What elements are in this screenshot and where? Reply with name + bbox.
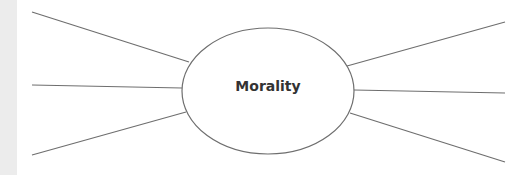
branch-right-bottom — [350, 113, 505, 162]
branch-right-middle — [354, 90, 505, 93]
branch-left-bottom — [32, 112, 186, 155]
branch-right-top — [347, 22, 505, 66]
branch-left-middle — [32, 85, 182, 88]
center-label: Morality — [182, 78, 354, 94]
branch-left-top — [32, 12, 189, 62]
